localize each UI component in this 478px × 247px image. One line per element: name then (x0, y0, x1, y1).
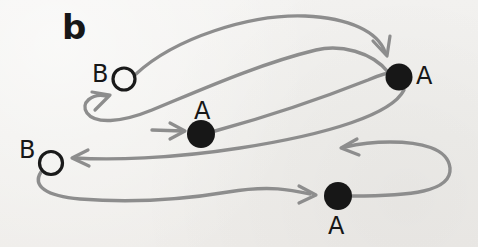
node-label-a-middle: A (194, 99, 210, 123)
edge-a-bottom-uturn-to-left (345, 142, 450, 196)
edge-a-middle-to-a-right (215, 72, 396, 131)
node-b-lower-open-circle (40, 152, 63, 175)
node-label-a-bottom: A (328, 214, 344, 238)
node-a-bottom-filled-circle (324, 182, 352, 210)
edge-short-into-a-middle (152, 130, 183, 131)
node-label-a-right: A (416, 64, 432, 88)
edge-group (38, 16, 450, 203)
figure-panel-b: b B A A B A (0, 0, 478, 247)
edge-a-right-loop-to-b-upper (85, 48, 388, 121)
node-label-b-upper: B (92, 62, 108, 86)
panel-label-b: b (62, 10, 86, 44)
node-label-b-lower: B (19, 138, 35, 162)
node-b-upper-open-circle (113, 68, 135, 90)
node-a-right-filled-circle (386, 64, 413, 91)
edge-b-lower-to-a-bottom (38, 172, 310, 201)
